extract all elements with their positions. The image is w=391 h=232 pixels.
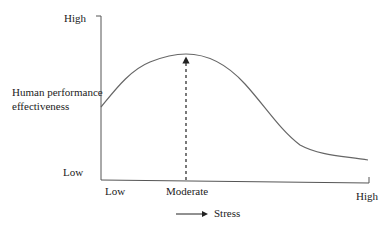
x-axis-title: Stress	[214, 207, 240, 220]
y-axis-title-line2: effectiveness	[12, 100, 69, 113]
x-low-label: Low	[105, 185, 125, 198]
y-axis-title-line1: Human performance	[12, 86, 103, 99]
x-moderate-label: Moderate	[166, 185, 208, 198]
y-low-label: Low	[63, 166, 83, 179]
x-axis	[101, 177, 369, 183]
performance-curve	[101, 54, 368, 160]
y-high-label: High	[64, 12, 86, 25]
x-high-label: High	[356, 190, 378, 203]
